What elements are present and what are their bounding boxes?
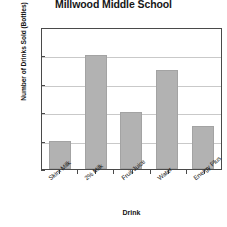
bar-2-milk [85,55,107,169]
y-tick-mark [41,170,45,171]
x-tick-boundary-mark [113,170,114,174]
plot-area [41,28,222,170]
bar-water [156,70,178,169]
y-tick-mark [41,85,45,86]
y-tick-mark [41,28,45,29]
y-tick-mark [41,113,45,114]
chart-title-line-2: Millwood Middle School [0,0,227,10]
y-tick-mark [41,56,45,57]
chart-title: Millwood Middle School [0,0,227,10]
y-tick-mark [41,142,45,143]
x-tick-boundary-mark [77,170,78,174]
y-axis-title: Number of Drinks Sold (Bottles) [20,0,27,122]
x-axis-title: Drink [41,209,222,216]
bar-series [42,29,221,169]
x-tick-boundary-mark [186,170,187,174]
x-tick-boundary-mark [150,170,151,174]
